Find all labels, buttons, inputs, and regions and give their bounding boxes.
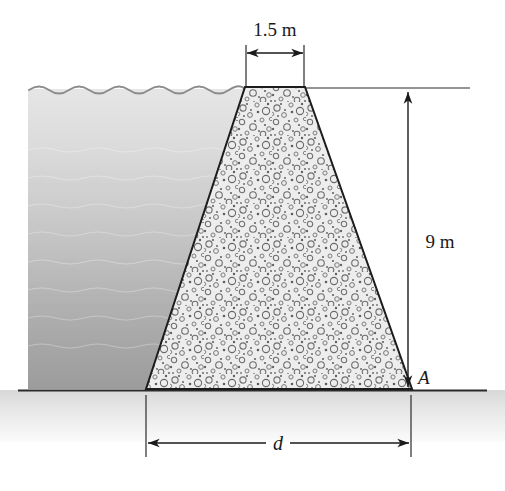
height-label: 9 m bbox=[425, 231, 454, 252]
crest-width-dimension: 1.5 m bbox=[246, 19, 304, 86]
dam-diagram-figure: 1.5 m 9 m A d bbox=[0, 0, 505, 491]
dam-cross-section-svg: 1.5 m 9 m A d bbox=[0, 0, 505, 491]
ground-region bbox=[0, 390, 505, 442]
ground-fill bbox=[0, 390, 505, 442]
crest-width-label: 1.5 m bbox=[253, 19, 297, 40]
point-a-label: A bbox=[416, 367, 430, 388]
base-width-label: d bbox=[273, 432, 284, 454]
